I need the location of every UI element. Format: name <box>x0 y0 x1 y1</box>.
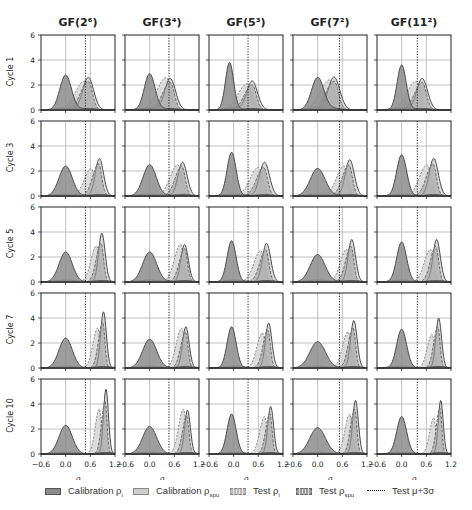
density-area <box>41 401 115 454</box>
y-tick-label: 4 <box>30 314 35 323</box>
column-title: GF(3⁴) <box>120 16 204 29</box>
y-tick-label: 6 <box>30 289 35 298</box>
panel-1-3 <box>290 121 367 199</box>
x-tick-label: 0.6 <box>420 460 432 469</box>
column-title: GF(11²) <box>372 16 456 29</box>
x-tick-label: 0.6 <box>168 460 180 469</box>
row-label: Cycle 10 <box>6 385 15 445</box>
row-label: Cycle 3 <box>6 127 15 187</box>
panel-1-1 <box>122 121 199 199</box>
y-tick-label: 2 <box>30 253 35 262</box>
panel-2-4 <box>374 207 451 285</box>
panel-3-4 <box>374 293 451 371</box>
y-tick-label: 0 <box>30 106 35 115</box>
x-axis-label: ρ <box>411 474 417 480</box>
legend-label: Test ρi <box>253 485 280 498</box>
x-tick-label: 1.2 <box>445 460 457 469</box>
panel-3-1 <box>122 293 199 371</box>
row-label: Cycle 7 <box>6 299 15 359</box>
panel-0-0: 0246 <box>30 31 115 115</box>
legend: Calibration ρi Calibration ρspu Test ρi … <box>0 482 472 502</box>
x-tick-label: 0.0 <box>312 460 324 469</box>
y-tick-label: 0 <box>30 364 35 373</box>
row-label: Cycle 5 <box>6 213 15 273</box>
chart-grid: 02460246024602460246−0.60.00.61.2ρ−0.60.… <box>0 0 472 480</box>
test-pi-swatch <box>230 488 246 495</box>
calibration-psu-swatch <box>133 488 149 495</box>
column-title: GF(7²) <box>288 16 372 29</box>
y-tick-label: 6 <box>30 203 35 212</box>
panel-1-2 <box>206 121 283 199</box>
panel-0-4 <box>374 35 451 113</box>
x-axis-label: ρ <box>243 474 249 480</box>
calibration-pi-swatch <box>45 488 61 495</box>
y-tick-label: 6 <box>30 375 35 384</box>
column-title: GF(2⁶) <box>36 16 120 29</box>
panel-0-2 <box>206 35 283 113</box>
x-tick-label: −0.6 <box>368 460 386 469</box>
panel-4-4: −0.60.00.61.2ρ <box>368 379 457 480</box>
y-tick-label: 4 <box>30 228 35 237</box>
x-tick-label: −0.6 <box>32 460 50 469</box>
column-title: GF(5³) <box>204 16 288 29</box>
legend-item-test-psu: Test ρspu <box>296 485 354 498</box>
panel-1-4 <box>374 121 451 199</box>
y-tick-label: 6 <box>30 117 35 126</box>
x-tick-label: 0.0 <box>228 460 240 469</box>
y-tick-label: 0 <box>30 450 35 459</box>
x-axis-label: ρ <box>75 474 81 480</box>
legend-item-test-threshold: Test μ+3σ <box>367 485 434 496</box>
dotted-line-swatch <box>367 490 385 491</box>
legend-item-test-pi: Test ρi <box>230 485 280 498</box>
y-tick-label: 4 <box>30 400 35 409</box>
x-tick-label: −0.6 <box>284 460 302 469</box>
y-tick-label: 0 <box>30 192 35 201</box>
row-label: Cycle 1 <box>6 41 15 101</box>
x-tick-label: −0.6 <box>116 460 134 469</box>
legend-item-calibration-pi: Calibration ρi <box>45 485 123 498</box>
y-tick-label: 6 <box>30 31 35 40</box>
y-tick-label: 4 <box>30 142 35 151</box>
x-tick-label: 0.0 <box>60 460 72 469</box>
test-psu-swatch <box>296 488 312 495</box>
x-tick-label: 0.6 <box>252 460 264 469</box>
y-tick-label: 2 <box>30 425 35 434</box>
panel-2-3 <box>290 207 367 285</box>
y-tick-label: 4 <box>30 56 35 65</box>
panel-2-1 <box>122 207 199 285</box>
panel-0-1 <box>122 35 199 113</box>
x-axis-label: ρ <box>327 474 333 480</box>
y-tick-label: 2 <box>30 167 35 176</box>
panel-2-0: 0246 <box>30 203 115 287</box>
y-tick-label: 2 <box>30 81 35 90</box>
legend-label: Test μ+3σ <box>392 485 434 496</box>
panel-1-0: 0246 <box>30 117 115 201</box>
panel-0-3 <box>290 35 367 113</box>
legend-item-calibration-psu: Calibration ρspu <box>133 485 219 498</box>
y-tick-label: 0 <box>30 278 35 287</box>
panel-3-2 <box>206 293 283 371</box>
x-tick-label: 0.0 <box>396 460 408 469</box>
x-tick-label: 0.6 <box>84 460 96 469</box>
panel-4-0: 0246−0.60.00.61.2ρ <box>30 375 121 480</box>
panel-4-2: −0.60.00.61.2ρ <box>200 379 289 480</box>
x-tick-label: −0.6 <box>200 460 218 469</box>
y-tick-label: 2 <box>30 339 35 348</box>
legend-label: Test ρspu <box>319 485 354 498</box>
panel-4-3: −0.60.00.61.2ρ <box>284 379 373 480</box>
legend-label: Calibration ρspu <box>156 485 219 498</box>
panel-3-0: 0246 <box>30 289 115 373</box>
x-axis-label: ρ <box>159 474 165 480</box>
legend-label: Calibration ρi <box>68 485 123 498</box>
panel-2-2 <box>206 207 283 285</box>
panel-4-1: −0.60.00.61.2ρ <box>116 379 205 480</box>
density-area <box>41 322 115 368</box>
x-tick-label: 0.6 <box>336 460 348 469</box>
panel-3-3 <box>290 293 367 371</box>
density-area <box>377 408 451 454</box>
x-tick-label: 0.0 <box>144 460 156 469</box>
